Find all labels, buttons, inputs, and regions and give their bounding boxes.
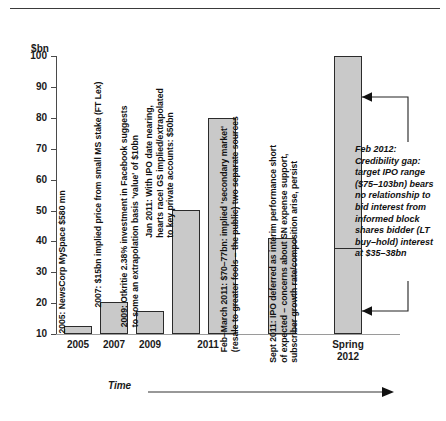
leader-line-lower [362, 281, 408, 311]
arrow-head-upper-icon [362, 92, 372, 102]
time-axis-label: Time [108, 380, 131, 391]
chart-figure: $bn 100 90 80 70 60 50 40 30 20 10 2005:… [0, 0, 446, 421]
time-axis-arrow-icon [148, 386, 398, 398]
time-axis: Time [56, 378, 400, 402]
leader-line-upper [362, 97, 408, 142]
arrow-head-lower-icon [362, 306, 372, 316]
credibility-gap-note: Feb 2012: Credibility gap: target IPO ra… [355, 144, 443, 260]
